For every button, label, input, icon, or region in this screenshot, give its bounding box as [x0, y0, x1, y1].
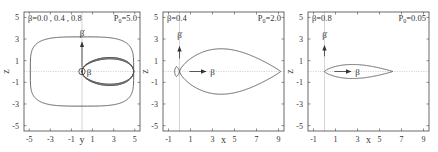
y-tick-label: 5 — [154, 13, 158, 22]
beta-label-center: β — [87, 67, 92, 77]
y-tick-label: -5 — [151, 122, 158, 131]
x-tick-label: 9 — [422, 135, 426, 144]
x-tick-label: 1 — [189, 135, 193, 144]
y-tick-label: -3 — [296, 100, 303, 109]
y-tick-label: 3 — [154, 35, 158, 44]
y-tick-label: -5 — [12, 122, 19, 131]
beta-label: β=0.0 , 0.4 , 0.8 — [28, 13, 82, 23]
beta-dot-label: β̇ — [177, 30, 183, 40]
y-tick-label: -3 — [12, 100, 19, 109]
y-tick-label: -1 — [296, 78, 303, 87]
x-tick-label: 9 — [277, 135, 281, 144]
x-tick-label: 3 — [112, 135, 116, 144]
x-tick-label: -1 — [165, 135, 172, 144]
x-tick-label: -1 — [310, 135, 317, 144]
x-tick-label: 5 — [133, 135, 137, 144]
y-tick-label: 5 — [299, 13, 303, 22]
beta-label: β — [210, 67, 215, 77]
panel-2: -113579-5-3-1135xzβ=0.4P0=2.0β̇β — [139, 12, 284, 145]
x-tick-label: 3 — [356, 135, 360, 144]
x-tick-label: 7 — [255, 135, 259, 144]
y-tick-label: 1 — [154, 57, 158, 66]
y-tick-label: -1 — [12, 78, 19, 87]
beta-label: β=0.8 — [312, 13, 332, 23]
x-tick-label: -3 — [47, 135, 54, 144]
panel-3: -113579-5-3-1135xzβ=0.8P0=0.05β̇β — [284, 12, 429, 145]
x-tick-label: -5 — [26, 135, 33, 144]
y-axis-label: z — [284, 69, 295, 74]
y-tick-label: -5 — [296, 122, 303, 131]
x-axis-label: y — [80, 134, 85, 145]
y-axis-label: z — [139, 69, 150, 74]
x-tick-label: -1 — [68, 135, 75, 144]
y-tick-label: -1 — [151, 78, 158, 87]
x-axis-label: x — [221, 134, 226, 145]
y-tick-label: 1 — [299, 57, 303, 66]
panel-1: -5-3-1135-5-3-1135yzβ=0.0 , 0.4 , 0.8P0=… — [0, 12, 140, 145]
x-tick-label: 7 — [400, 135, 404, 144]
y-axis-label: z — [0, 69, 11, 74]
p0-label: P0=2.0 — [258, 13, 281, 24]
y-tick-label: 1 — [15, 57, 19, 66]
x-tick-label: 3 — [211, 135, 215, 144]
beta-dot-label: β̇ — [322, 30, 328, 40]
x-tick-label: 1 — [334, 135, 338, 144]
y-tick-label: 5 — [15, 13, 19, 22]
beta-label: β=0.4 — [167, 13, 187, 23]
x-tick-label: 1 — [91, 135, 95, 144]
y-tick-label: 3 — [299, 35, 303, 44]
x-tick-label: 5 — [378, 135, 382, 144]
beta-label: β — [355, 67, 360, 77]
figure: -5-3-1135-5-3-1135yzβ=0.0 , 0.4 , 0.8P0=… — [0, 0, 438, 152]
y-tick-label: 3 — [15, 35, 19, 44]
p0-label: P0=0.05 — [399, 13, 426, 24]
p0-label: P0=5.0 — [114, 13, 137, 24]
x-tick-label: 5 — [233, 135, 237, 144]
y-tick-label: -3 — [151, 100, 158, 109]
x-axis-label: x — [366, 134, 371, 145]
